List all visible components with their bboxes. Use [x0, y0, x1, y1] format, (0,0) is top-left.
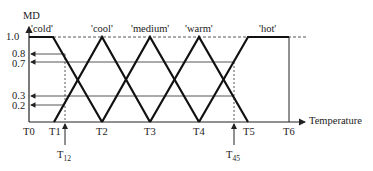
t12-label: T12	[57, 150, 71, 163]
set-label-cold: 'cold'	[31, 24, 53, 35]
set-label-hot: 'hot'	[259, 24, 276, 35]
x-tick-t2: T2	[96, 127, 108, 138]
mf-cold	[29, 37, 102, 122]
mf-hot	[199, 37, 289, 122]
set-label-cool: 'cool'	[91, 24, 113, 35]
x-tick-t5: T5	[243, 127, 255, 138]
set-label-warm: 'warm'	[185, 24, 213, 35]
mf-warm	[150, 37, 248, 122]
t45-label: T45	[226, 150, 240, 163]
x-axis-label: Temperature	[309, 116, 362, 127]
t45-sub: 45	[232, 154, 240, 163]
y-tick-0.2: 0.2	[12, 101, 25, 112]
x-tick-t6: T6	[283, 127, 295, 138]
mf-cool	[54, 37, 150, 122]
y-axis-label: MD	[23, 11, 40, 22]
x-tick-t4: T4	[193, 127, 205, 138]
x-tick-t3: T3	[144, 127, 156, 138]
x-tick-t0: T0	[23, 127, 35, 138]
y-tick-0.7: 0.7	[12, 59, 25, 70]
set-label-medium: 'medium'	[131, 24, 169, 35]
x-tick-t1: T1	[49, 127, 61, 138]
t12-sub: 12	[63, 154, 71, 163]
y-tick-1.0: 1.0	[6, 32, 19, 43]
mf-medium	[102, 37, 199, 122]
